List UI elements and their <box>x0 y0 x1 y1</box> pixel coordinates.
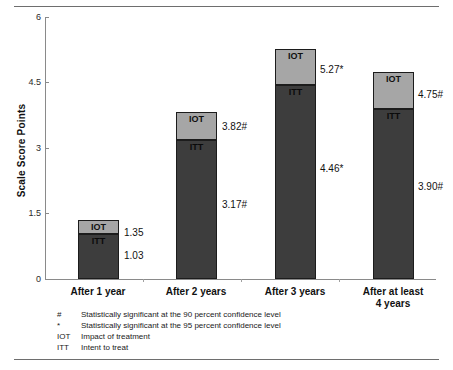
y-tick-6 <box>45 17 49 18</box>
bar-group-after-at-least-4-years[interactable]: IOT ITT <box>373 72 414 279</box>
bar-segment-iot[interactable]: IOT <box>78 220 119 234</box>
footnote-symbol: IOT <box>57 331 81 342</box>
bar-group-after-1-year[interactable]: IOT ITT <box>78 220 119 279</box>
bar-segment-iot-label: IOT <box>386 73 401 84</box>
x-axis-category-label: After at least 4 years <box>338 286 448 310</box>
footnote-symbol: # <box>57 309 81 320</box>
x-axis-separator <box>241 279 242 282</box>
bar-segment-iot-label: IOT <box>288 50 303 61</box>
footnote-text: Impact of treatment <box>81 331 150 342</box>
bar-segment-itt[interactable]: ITT <box>176 140 217 279</box>
footnote-symbol: * <box>57 320 81 331</box>
x-axis-category-label-line1: After 3 years <box>240 286 350 298</box>
bar-segment-itt[interactable]: ITT <box>373 109 414 279</box>
bar-itt-value-label: 1.03 <box>124 250 143 261</box>
bar-segment-itt-label: ITT <box>190 141 204 152</box>
bar-segment-iot[interactable]: IOT <box>373 72 414 109</box>
x-axis-category-label: After 3 years <box>240 286 350 298</box>
footnote-row: * Statistically significant at the 95 pe… <box>57 320 387 331</box>
y-tick-0 <box>45 279 49 280</box>
bar-segment-itt[interactable]: ITT <box>78 234 119 279</box>
x-axis-category-label-line1: After 1 year <box>43 286 153 298</box>
bar-total-value-label: 1.35 <box>124 227 143 238</box>
bar-total-value-label: 4.75# <box>418 89 443 100</box>
y-tick-label-1.5: 1.5 <box>1 209 41 218</box>
y-tick-label-0: 0 <box>1 275 41 284</box>
bar-segment-itt[interactable]: ITT <box>275 85 316 279</box>
y-tick-label-3: 3 <box>1 144 41 153</box>
x-axis-separator <box>339 279 340 282</box>
bar-itt-value-label: 3.17# <box>222 199 247 210</box>
bar-total-value-label: 5.27* <box>320 64 343 75</box>
bar-segment-itt-label: ITT <box>92 235 106 246</box>
bar-segment-iot-label: IOT <box>91 221 106 232</box>
bar-segment-iot-label: IOT <box>189 113 204 124</box>
footnote-text: Statistically significant at the 90 perc… <box>81 309 281 320</box>
bar-group-after-3-years[interactable]: IOT ITT <box>275 49 316 279</box>
bar-segment-iot[interactable]: IOT <box>176 112 217 140</box>
x-axis-category-label-line1: After 2 years <box>141 286 251 298</box>
footnote-text: Intent to treat <box>81 342 128 353</box>
y-tick-4.5 <box>45 82 49 83</box>
x-axis-category-label: After 1 year <box>43 286 153 298</box>
footnote-text: Statistically significant at the 95 perc… <box>81 320 281 331</box>
bar-itt-value-label: 4.46* <box>320 163 343 174</box>
footnote-symbol: ITT <box>57 342 81 353</box>
footnote-row: IOT Impact of treatment <box>57 331 387 342</box>
x-axis-separator <box>143 279 144 282</box>
y-tick-1.5 <box>45 213 49 214</box>
bar-segment-itt-label: ITT <box>289 86 303 97</box>
y-tick-label-4.5: 4.5 <box>1 78 41 87</box>
x-axis-category-label: After 2 years <box>141 286 251 298</box>
bar-segment-iot[interactable]: IOT <box>275 49 316 85</box>
bar-itt-value-label: 3.90# <box>418 181 443 192</box>
y-tick-label-6: 6 <box>1 13 41 22</box>
bar-total-value-label: 3.82# <box>222 121 247 132</box>
bar-segment-itt-label: ITT <box>387 110 401 121</box>
bar-group-after-2-years[interactable]: IOT ITT <box>176 112 217 279</box>
footnote-row: ITT Intent to treat <box>57 342 387 353</box>
footnote-row: # Statistically significant at the 90 pe… <box>57 309 387 320</box>
footnote-legend: # Statistically significant at the 90 pe… <box>57 309 387 353</box>
x-axis-category-label-line1: After at least <box>338 286 448 298</box>
y-tick-3 <box>45 148 49 149</box>
